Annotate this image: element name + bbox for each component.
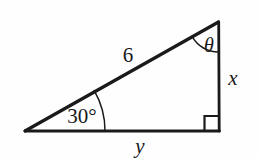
triangle-figure: 6 30° θ x y xyxy=(0,0,259,159)
adjacent-side-label: y xyxy=(135,136,144,157)
right-angle-marker-icon xyxy=(205,116,220,131)
hypotenuse-line xyxy=(25,22,219,131)
hypotenuse-label: 6 xyxy=(123,45,134,66)
triangle-svg xyxy=(0,0,259,159)
angle-theta-label: θ xyxy=(204,35,214,55)
opposite-side-label: x xyxy=(228,68,237,89)
opposite-leg-line xyxy=(219,22,220,131)
angle-30-degrees-label: 30° xyxy=(67,106,96,127)
